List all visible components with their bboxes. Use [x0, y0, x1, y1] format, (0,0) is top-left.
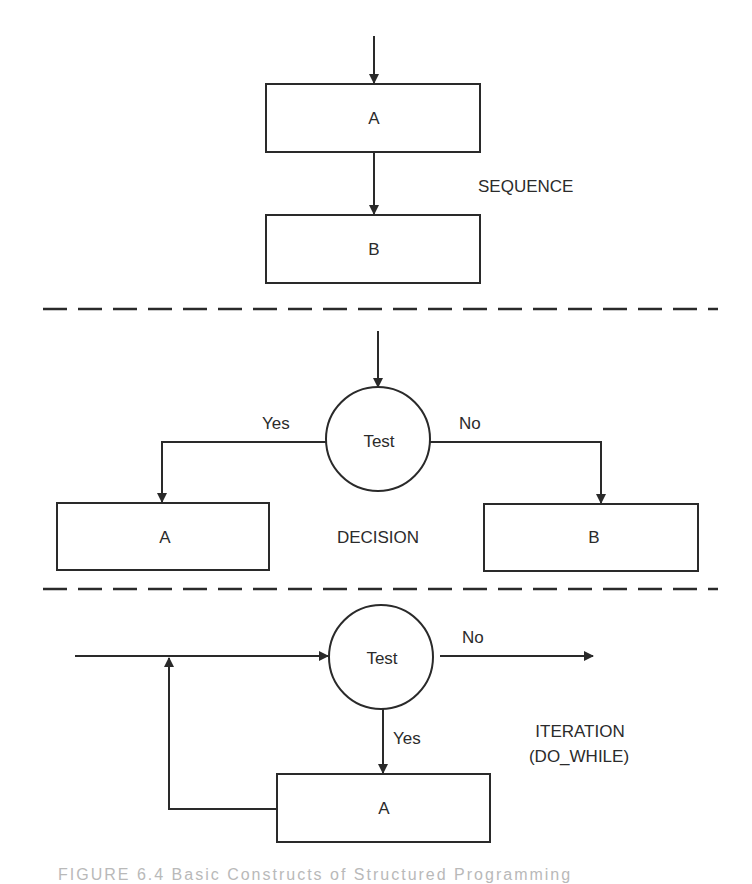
iteration-test-label: Test [366, 649, 397, 668]
figure-caption: FIGURE 6.4 Basic Constructs of Structure… [58, 866, 718, 884]
decision-title: DECISION [337, 528, 419, 547]
sequence-box-a-label: A [368, 109, 380, 128]
decision-box-a-label: A [159, 528, 171, 547]
iteration-section [75, 605, 593, 842]
iteration-title-line2: (DO_WHILE) [529, 747, 629, 766]
decision-test-label: Test [363, 432, 394, 451]
decision-yes-label: Yes [262, 414, 290, 433]
iteration-no-label: No [462, 628, 484, 647]
decision-box-b-label: B [588, 528, 599, 547]
decision-no-branch-arrow [430, 442, 601, 503]
decision-yes-branch-arrow [162, 442, 326, 502]
decision-no-label: No [459, 414, 481, 433]
iteration-title-line1: ITERATION [535, 722, 624, 741]
iteration-box-a-label: A [378, 799, 390, 818]
iteration-yes-label: Yes [393, 729, 421, 748]
iteration-loop-back-arrow [169, 658, 277, 809]
sequence-box-b-label: B [368, 240, 379, 259]
sequence-title: SEQUENCE [478, 177, 573, 196]
